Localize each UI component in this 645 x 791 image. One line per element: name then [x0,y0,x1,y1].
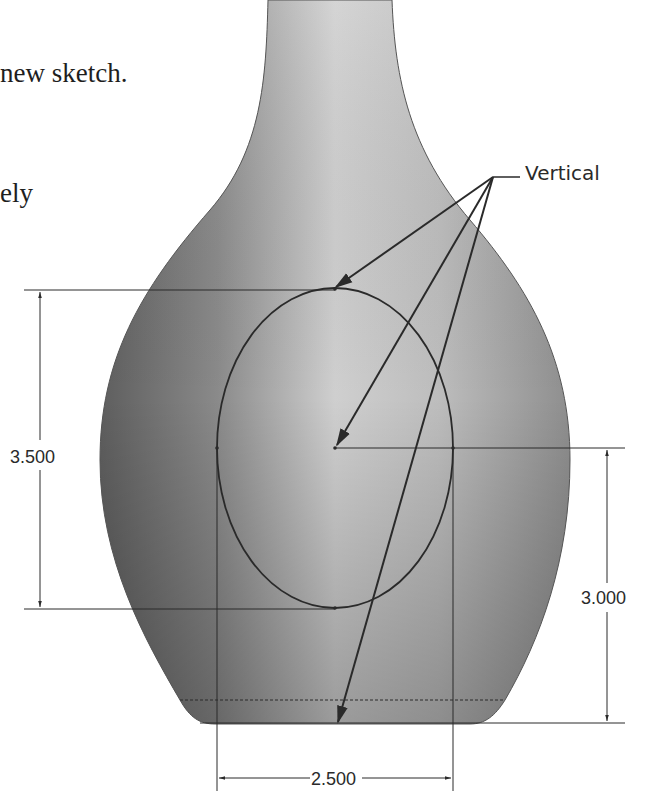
dimension-ellipse-height[interactable]: 3.500 [10,292,55,607]
dimension-label-2500: 2.500 [311,769,356,789]
dimension-ellipse-width[interactable]: 2.500 [219,769,451,789]
dimension-label-3000: 3.000 [581,588,626,608]
vertical-relation-label: Vertical [525,161,600,185]
dimension-label-3500: 3.500 [10,447,55,467]
dimension-center-to-base[interactable]: 3.000 [581,450,626,721]
vase-model [100,0,570,724]
sketch-drawing: 3.500 3.000 2.500 Vertical [0,0,645,791]
